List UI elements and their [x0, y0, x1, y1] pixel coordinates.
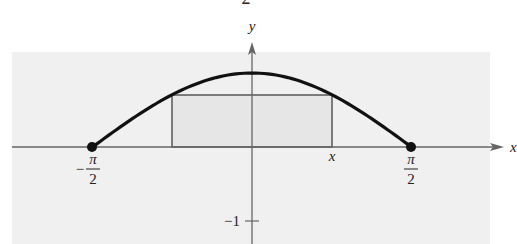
plot-background: [12, 52, 490, 244]
cosine-figure: 2 x y −1 − π 2 π 2 x: [0, 0, 517, 244]
y-tick-label-neg1: −1: [224, 213, 240, 229]
denominator: 2: [89, 171, 97, 187]
pi-numerator: π: [407, 151, 415, 167]
denominator: 2: [407, 171, 415, 187]
x-axis-label: x: [509, 139, 517, 155]
top-fragment-text: 2: [242, 0, 251, 8]
pi-numerator: π: [89, 151, 97, 167]
y-axis-label: y: [247, 18, 256, 34]
x-point-label: x: [328, 148, 336, 164]
minus-sign: −: [76, 161, 84, 177]
